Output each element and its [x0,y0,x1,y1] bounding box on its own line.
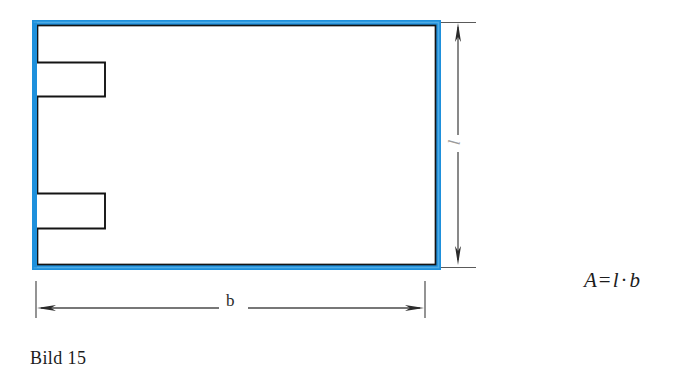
dimension-label-width: b [219,292,242,311]
formula-width-symbol: b [630,268,641,292]
formula-equals-sign: = [597,268,613,292]
technical-drawing [0,0,690,382]
formula-length-symbol: l [613,268,619,292]
notch-upper [37,63,105,97]
formula-area-symbol: A [584,268,597,292]
dimension-label-height: l [444,134,464,151]
notch-lower [37,194,105,229]
formula-multiply-sign: · [619,268,630,292]
area-formula: A=l·b [563,243,640,318]
figure-caption: Bild 15 [30,348,86,369]
figure-container: b l A=l·b Bild 15 [0,0,690,382]
